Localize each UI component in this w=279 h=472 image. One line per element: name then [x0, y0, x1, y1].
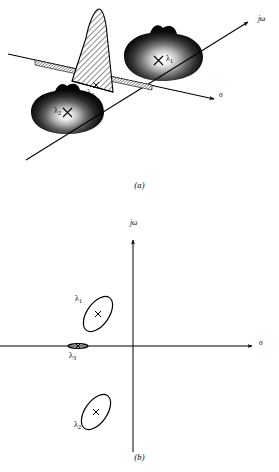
- panel-a-lambda1-label: λ1: [166, 54, 173, 63]
- panel-a-sigma-axis-label: σ: [219, 90, 223, 99]
- panel-a-three-dimensional-view: jω σ λ1 λ2 λ3: [0, 0, 279, 178]
- panel-a-jomega-axis-label: jω: [258, 14, 265, 23]
- panel-b-complex-plane: jω σ λ1 λ2 λ3: [0, 196, 279, 452]
- panel-b-sigma-axis-label: σ: [259, 338, 263, 347]
- panel-b-caption: (b): [0, 452, 279, 462]
- lambda3-peak-shape: [72, 9, 113, 92]
- eigenvalue-uncertainty-figure: jω σ λ1 λ2 λ3 (a): [0, 0, 279, 472]
- panel-a-lambda2-label: λ2: [54, 106, 61, 115]
- panel-b-lambda2-ellipse: [76, 389, 117, 434]
- panel-a-lambda3-label: λ3: [87, 88, 94, 97]
- panel-b-lambda1-label: λ1: [75, 294, 82, 303]
- panel-b-jomega-axis-label: jω: [130, 218, 137, 227]
- lambda1-mound-shape: [124, 25, 203, 81]
- panel-b-lambda1-ellipse: [78, 291, 119, 336]
- panel-b-lambda2-label: λ2: [74, 420, 81, 429]
- panel-a-caption: (a): [0, 180, 279, 190]
- panel-b-lambda3-label: λ3: [69, 351, 76, 360]
- panel-b-graphic: [0, 196, 279, 452]
- panel-a-graphic: [0, 0, 279, 178]
